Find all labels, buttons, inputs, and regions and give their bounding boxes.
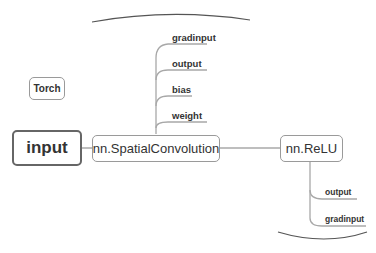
- node-spatial-convolution[interactable]: nn.SpatialConvolution: [92, 135, 220, 162]
- leaf-gradinput[interactable]: gradinput: [172, 32, 216, 43]
- node-label: nn.ReLU: [286, 141, 337, 156]
- root-node-label: input: [26, 138, 68, 158]
- floating-topic-torch[interactable]: Torch: [29, 77, 65, 100]
- root-node-input[interactable]: input: [12, 130, 82, 166]
- leaf-relu-gradinput[interactable]: gradinput: [325, 214, 364, 224]
- node-relu[interactable]: nn.ReLU: [280, 135, 343, 162]
- leaf-weight[interactable]: weight: [172, 110, 202, 121]
- leaf-bias[interactable]: bias: [172, 84, 191, 95]
- node-label: nn.SpatialConvolution: [93, 141, 219, 156]
- leaf-relu-output[interactable]: output: [325, 187, 351, 197]
- leaf-output[interactable]: output: [172, 58, 202, 69]
- bottom-bracket: [278, 232, 367, 239]
- top-bracket: [92, 14, 250, 22]
- floating-topic-label: Torch: [33, 83, 60, 94]
